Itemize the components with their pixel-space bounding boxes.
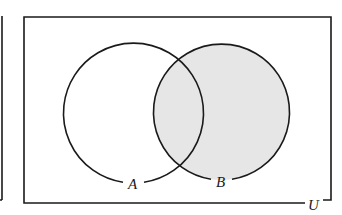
venn-diagram: A B U (0, 0, 342, 215)
set-b-label: B (216, 174, 225, 190)
universe-label: U (308, 197, 320, 213)
set-a-label: A (127, 176, 138, 192)
